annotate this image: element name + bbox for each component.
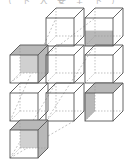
cube-r2-c3 — [85, 45, 123, 83]
hidden-edge — [85, 73, 95, 83]
cube-r3-c1 — [10, 83, 48, 121]
right-edges — [113, 8, 123, 46]
cube-r4-c1 — [10, 120, 48, 158]
top-edges — [46, 8, 84, 18]
front-face — [46, 55, 74, 83]
top-edges — [85, 8, 123, 18]
front-face — [85, 55, 113, 83]
cube-r3-c3 — [85, 83, 123, 121]
cube-r3-c2 — [46, 83, 84, 121]
cube-r2-c2 — [46, 45, 84, 83]
front-face — [46, 93, 74, 121]
top-edges — [85, 45, 123, 55]
front-face — [46, 18, 74, 46]
hidden-edge — [46, 36, 56, 46]
shaded-top-face — [85, 83, 123, 93]
front-face — [10, 93, 38, 121]
top-edges — [10, 83, 48, 93]
cube-r2-c1 — [10, 45, 48, 83]
hidden-edge — [46, 73, 56, 83]
right-edges — [74, 8, 84, 46]
top-edges — [46, 83, 84, 93]
right-edges — [74, 45, 84, 83]
right-edges — [74, 83, 84, 121]
right-edges — [38, 83, 48, 121]
hidden-edge — [46, 111, 56, 121]
cube-r1-c2 — [46, 8, 84, 46]
hidden-edge — [10, 73, 20, 83]
right-edges — [113, 45, 123, 83]
hidden-edge — [10, 111, 20, 121]
cube-r1-c3 — [85, 8, 123, 46]
cube-arrangement-diagram — [0, 0, 126, 160]
shaded-bottom-face — [85, 31, 113, 46]
top-edges — [46, 45, 84, 55]
